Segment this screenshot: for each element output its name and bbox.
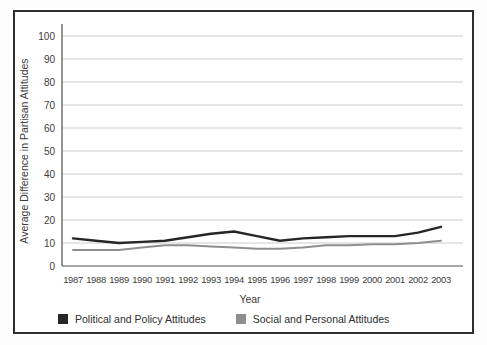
x-tick-label-1989: 1989 [109, 274, 129, 285]
y-tick-label-30: 30 [44, 192, 56, 203]
y-tick-label-80: 80 [44, 77, 56, 88]
x-tick-label-1998: 1998 [316, 274, 336, 285]
x-tick-label-1997: 1997 [293, 274, 313, 285]
y-tick-label-100: 100 [38, 31, 55, 42]
y-axis-label: Average Difference in Partisan Attitudes [18, 11, 32, 291]
x-tick-label-1991: 1991 [155, 274, 175, 285]
x-tick-label-2000: 2000 [362, 274, 382, 285]
x-axis-label: Year [50, 293, 450, 305]
y-tick-label-10: 10 [44, 238, 56, 249]
x-tick-label-1993: 1993 [201, 274, 221, 285]
x-tick-label-1995: 1995 [247, 274, 267, 285]
chart-figure: 0102030405060708090100198719881989199019… [0, 0, 487, 345]
x-tick-label-1999: 1999 [339, 274, 359, 285]
x-tick-label-2002: 2002 [408, 274, 428, 285]
x-tick-label-1990: 1990 [132, 274, 152, 285]
series-line-political-and-policy-attitudes [73, 227, 441, 243]
legend-label-political: Political and Policy Attitudes [75, 313, 206, 325]
y-tick-label-60: 60 [44, 123, 56, 134]
y-tick-label-50: 50 [44, 146, 56, 157]
x-tick-label-2001: 2001 [385, 274, 405, 285]
x-tick-label-1994: 1994 [224, 274, 244, 285]
legend-item-social: Social and Personal Attitudes [236, 313, 390, 325]
y-tick-label-40: 40 [44, 169, 56, 180]
legend-swatch-political [58, 314, 68, 324]
x-tick-label-1988: 1988 [86, 274, 106, 285]
y-tick-label-20: 20 [44, 215, 56, 226]
x-tick-label-1992: 1992 [178, 274, 198, 285]
x-tick-label-1996: 1996 [270, 274, 290, 285]
legend: Political and Policy Attitudes Social an… [58, 313, 389, 325]
y-tick-label-70: 70 [44, 100, 56, 111]
legend-item-political: Political and Policy Attitudes [58, 313, 206, 325]
legend-label-social: Social and Personal Attitudes [253, 313, 390, 325]
y-tick-label-90: 90 [44, 54, 56, 65]
x-tick-label-2003: 2003 [431, 274, 451, 285]
legend-swatch-social [236, 314, 246, 324]
y-tick-label-0: 0 [49, 261, 55, 272]
x-tick-label-1987: 1987 [63, 274, 83, 285]
